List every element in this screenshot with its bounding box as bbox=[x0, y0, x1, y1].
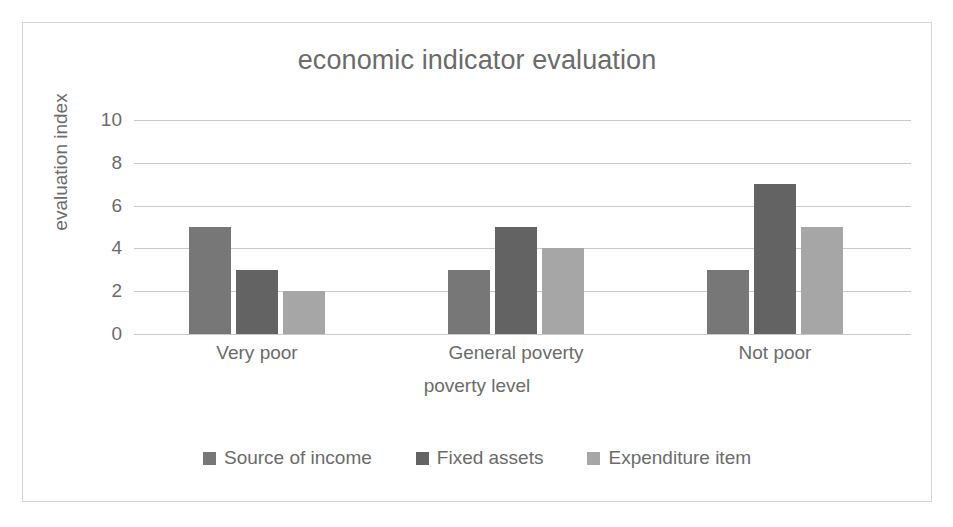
gridline: 0 bbox=[134, 334, 911, 335]
legend-swatch-icon bbox=[587, 452, 600, 465]
x-axis-title: poverty level bbox=[23, 375, 931, 397]
chart-container: economic indicator evaluation evaluation… bbox=[22, 22, 932, 502]
legend-label: Fixed assets bbox=[437, 447, 544, 469]
y-axis-tick-label: 10 bbox=[101, 109, 122, 131]
chart-legend: Source of incomeFixed assetsExpenditure … bbox=[23, 447, 931, 469]
legend-swatch-icon bbox=[416, 452, 429, 465]
bar bbox=[236, 270, 278, 334]
legend-item[interactable]: Expenditure item bbox=[587, 447, 751, 469]
bar bbox=[189, 227, 231, 334]
plot-area: 0246810 Very poorGeneral povertyNot poor bbox=[134, 120, 911, 334]
y-axis-title: evaluation index bbox=[50, 62, 72, 262]
x-axis-category-label: Very poor bbox=[216, 342, 297, 364]
legend-swatch-icon bbox=[203, 452, 216, 465]
legend-item[interactable]: Source of income bbox=[203, 447, 372, 469]
y-axis-tick-label: 8 bbox=[111, 152, 122, 174]
x-axis-category-label: Not poor bbox=[739, 342, 812, 364]
x-axis-category-label: General poverty bbox=[448, 342, 583, 364]
legend-item[interactable]: Fixed assets bbox=[416, 447, 544, 469]
bar bbox=[707, 270, 749, 334]
bar bbox=[542, 248, 584, 334]
bar bbox=[448, 270, 490, 334]
legend-label: Expenditure item bbox=[608, 447, 751, 469]
y-axis-tick-label: 0 bbox=[111, 323, 122, 345]
y-axis-tick-label: 2 bbox=[111, 280, 122, 302]
bar bbox=[283, 291, 325, 334]
bars-layer bbox=[134, 120, 911, 334]
bar bbox=[754, 184, 796, 334]
y-axis-tick-label: 6 bbox=[111, 195, 122, 217]
chart-title: economic indicator evaluation bbox=[23, 45, 931, 76]
bar bbox=[801, 227, 843, 334]
y-axis-tick-label: 4 bbox=[111, 237, 122, 259]
legend-label: Source of income bbox=[224, 447, 372, 469]
bar bbox=[495, 227, 537, 334]
